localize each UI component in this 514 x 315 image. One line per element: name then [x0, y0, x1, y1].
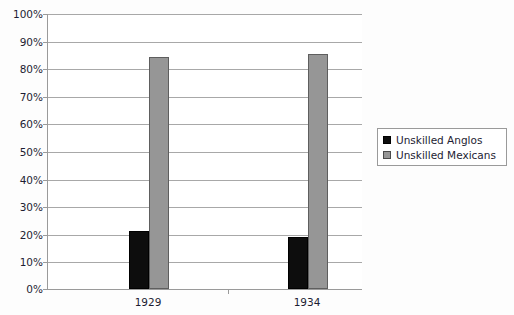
- y-axis-tick: [43, 124, 48, 125]
- y-axis-tick: [43, 207, 48, 208]
- x-axis-label-1934: 1934: [277, 296, 337, 308]
- y-axis-label: 20%: [3, 230, 43, 240]
- y-axis-tick: [43, 180, 48, 181]
- y-axis-label: 10%: [3, 257, 43, 267]
- bar-1934-anglos: [288, 237, 308, 289]
- y-axis-tick: [43, 42, 48, 43]
- y-axis-label: 50%: [3, 147, 43, 157]
- y-axis-tick: [43, 152, 48, 153]
- bar-1929-mexicans: [149, 57, 169, 289]
- x-axis-ticks: [47, 290, 362, 295]
- y-axis-tick: [43, 14, 48, 15]
- x-axis-tick: [228, 290, 229, 294]
- y-axis-label: 60%: [3, 119, 43, 129]
- y-axis-tick: [43, 235, 48, 236]
- y-axis-tick: [43, 97, 48, 98]
- y-axis-tick: [43, 262, 48, 263]
- y-axis-label: 90%: [3, 37, 43, 47]
- gridline: [48, 14, 362, 15]
- y-axis-label: 0%: [3, 284, 43, 294]
- y-axis-label: 40%: [3, 175, 43, 185]
- legend-swatch-icon: [383, 151, 391, 159]
- x-axis-label-1929: 1929: [118, 296, 178, 308]
- y-axis-label: 70%: [3, 92, 43, 102]
- legend-label: Unskilled Anglos: [396, 135, 482, 146]
- chart-legend: Unskilled AnglosUnskilled Mexicans: [377, 128, 507, 166]
- legend-item-anglos: Unskilled Anglos: [383, 133, 506, 147]
- bar-1929-anglos: [129, 231, 149, 289]
- y-axis: 0%10%20%30%40%50%60%70%80%90%100%: [0, 14, 43, 290]
- legend-label: Unskilled Mexicans: [396, 150, 496, 161]
- legend-item-mexicans: Unskilled Mexicans: [383, 148, 506, 162]
- bar-1934-mexicans: [308, 54, 328, 289]
- y-axis-label: 100%: [3, 9, 43, 19]
- legend-swatch-icon: [383, 136, 391, 144]
- y-axis-label: 30%: [3, 202, 43, 212]
- plot-area: [47, 14, 362, 290]
- y-axis-label: 80%: [3, 64, 43, 74]
- bar-chart: 0%10%20%30%40%50%60%70%80%90%100% 192919…: [0, 0, 514, 315]
- y-axis-tick: [43, 69, 48, 70]
- gridline: [48, 42, 362, 43]
- x-axis: 19291934: [47, 296, 362, 314]
